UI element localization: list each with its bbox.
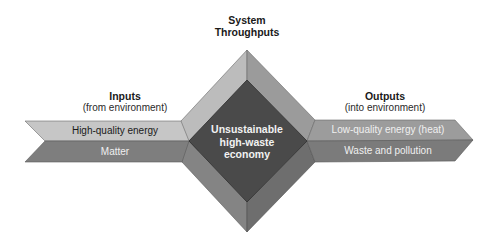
- input-energy-label: High-quality energy: [50, 125, 180, 137]
- economy-line3: economy: [197, 148, 297, 161]
- system-throughputs-line2: Throughputs: [197, 26, 297, 38]
- outputs-heading: Outputs (into environment): [330, 90, 440, 114]
- inputs-title: Inputs: [70, 90, 180, 102]
- outputs-subtitle: (into environment): [330, 102, 440, 114]
- economy-label: Unsustainable high-waste economy: [197, 123, 297, 161]
- output-heat-label: Low-quality energy (heat): [318, 124, 458, 136]
- system-throughputs-title: System Throughputs: [197, 14, 297, 38]
- outputs-title: Outputs: [330, 90, 440, 102]
- input-matter-label: Matter: [50, 146, 180, 158]
- inputs-heading: Inputs (from environment): [70, 90, 180, 114]
- economy-line2: high-waste: [197, 136, 297, 149]
- system-throughputs-line1: System: [197, 14, 297, 26]
- economy-line1: Unsustainable: [197, 123, 297, 136]
- inputs-subtitle: (from environment): [70, 102, 180, 114]
- output-waste-label: Waste and pollution: [318, 145, 458, 157]
